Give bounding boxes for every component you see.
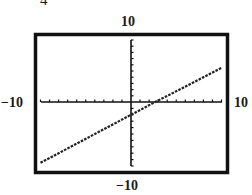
graph-screen: [0, 0, 252, 195]
axes: [41, 40, 223, 166]
